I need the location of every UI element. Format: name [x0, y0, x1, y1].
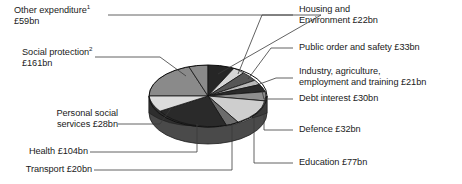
footnote-marker-1: 1	[87, 3, 90, 10]
callout-social-protection-line1: Social protection	[22, 47, 89, 57]
callout-social-protection-line2: £161bn	[22, 58, 52, 68]
callout-education: Education £77bn	[299, 157, 367, 168]
callout-industry: Industry, agriculture, employment and tr…	[299, 66, 426, 89]
callout-other-expenditure-line1: Other expenditure	[14, 5, 87, 15]
callout-transport: Transport £20bn	[8, 164, 92, 175]
callout-personal-social-services-line1: Personal social	[56, 108, 118, 118]
footnote-marker-2: 2	[89, 45, 92, 52]
callout-health-line1: Health £104bn	[29, 146, 88, 156]
callout-public-order: Public order and safety £33bn	[299, 42, 420, 53]
callout-social-protection: Social protection2 £161bn	[22, 47, 92, 70]
callout-other-expenditure: Other expenditure1 £59bn	[14, 5, 90, 28]
callout-personal-social-services-line2: services £28bn	[57, 119, 118, 129]
callout-defence-line1: Defence £32bn	[299, 124, 361, 134]
callout-public-order-line1: Public order and safety £33bn	[299, 42, 420, 52]
callout-other-expenditure-line2: £59bn	[14, 16, 39, 26]
callout-housing-environment-line1: Housing and	[299, 4, 350, 14]
callout-housing-environment: Housing and Environment £22bn	[299, 4, 378, 27]
callout-housing-environment-line2: Environment £22bn	[299, 15, 378, 25]
callout-defence: Defence £32bn	[299, 124, 361, 135]
callout-debt-interest: Debt interest £30bn	[299, 93, 378, 104]
callout-industry-line2: employment and training £21bn	[299, 77, 426, 87]
callout-industry-line1: Industry, agriculture,	[299, 66, 380, 76]
callout-education-line1: Education £77bn	[299, 157, 367, 167]
pie-chart-figure: Other expenditure1 £59bn Social protecti…	[0, 0, 462, 184]
callout-debt-interest-line1: Debt interest £30bn	[299, 93, 378, 103]
callout-transport-line1: Transport £20bn	[26, 164, 92, 174]
callout-personal-social-services: Personal social services £28bn	[33, 108, 118, 131]
callout-health: Health £104bn	[24, 146, 88, 157]
